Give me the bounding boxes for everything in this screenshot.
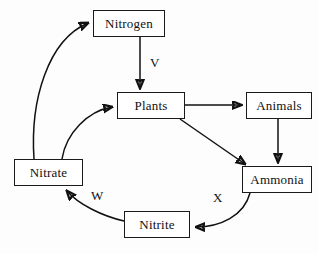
node-nitrate-label: Nitrate bbox=[30, 165, 68, 181]
edge-label-w: W bbox=[91, 188, 103, 204]
node-animals[interactable]: Animals bbox=[246, 92, 312, 119]
node-plants[interactable]: Plants bbox=[117, 92, 185, 119]
node-nitrate[interactable]: Nitrate bbox=[14, 159, 83, 186]
node-ammonia-label: Ammonia bbox=[250, 172, 303, 188]
node-ammonia[interactable]: Ammonia bbox=[242, 166, 312, 193]
edge-nitrate-to-plants bbox=[62, 107, 112, 159]
edge-nitrate-to-nitrogen bbox=[33, 23, 88, 159]
node-nitrite-label: Nitrite bbox=[139, 217, 174, 233]
edge-plants-to-ammonia bbox=[180, 119, 245, 164]
node-plants-label: Plants bbox=[135, 98, 168, 114]
node-nitrogen-label: Nitrogen bbox=[105, 16, 153, 32]
node-animals-label: Animals bbox=[256, 98, 301, 114]
nitrogen-cycle-diagram: Nitrogen Plants Animals Ammonia Nitrate … bbox=[0, 0, 318, 253]
edge-ammonia-to-nitrite bbox=[196, 193, 250, 227]
edge-label-x: X bbox=[213, 190, 222, 206]
node-nitrogen[interactable]: Nitrogen bbox=[93, 10, 165, 37]
edge-label-v: V bbox=[150, 55, 159, 71]
node-nitrite[interactable]: Nitrite bbox=[124, 211, 190, 238]
